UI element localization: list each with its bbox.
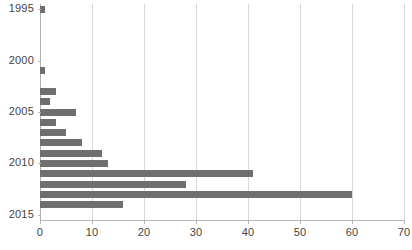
x-tick-mark-40 (248, 220, 249, 224)
bar-2012 (40, 181, 186, 188)
x-tick-mark-10 (92, 220, 93, 224)
bar-2008 (40, 139, 82, 146)
bar-2004 (40, 98, 50, 105)
bar-fill (40, 170, 253, 177)
y-tick-label: 2000 (0, 54, 34, 66)
gridline-x-50 (300, 4, 301, 220)
gridline-x-20 (144, 4, 145, 220)
y-tick-mark-2005 (38, 112, 41, 113)
gridline-x-40 (248, 4, 249, 220)
x-axis-line (40, 220, 405, 221)
bar-2007 (40, 129, 66, 136)
bar-fill (40, 109, 76, 116)
bar-2003 (40, 88, 56, 95)
bar-2005 (40, 109, 76, 116)
bar-fill (40, 191, 352, 198)
bar-2001 (40, 67, 45, 74)
bar-2014 (40, 201, 123, 208)
bar-chart: 010203040506070 19952000200520102015 (0, 0, 412, 250)
x-tick-mark-30 (196, 220, 197, 224)
x-tick-label: 10 (77, 226, 107, 238)
bar-fill (40, 88, 56, 95)
bar-fill (40, 98, 50, 105)
x-tick-label: 40 (233, 226, 263, 238)
x-tick-mark-60 (352, 220, 353, 224)
y-tick-mark-2015 (38, 215, 41, 216)
bar-fill (40, 139, 82, 146)
bar-fill (40, 119, 56, 126)
gridline-x-70 (404, 4, 405, 220)
bar-fill (40, 181, 186, 188)
bar-2011 (40, 170, 253, 177)
x-tick-mark-70 (404, 220, 405, 224)
bar-fill (40, 201, 123, 208)
x-tick-mark-50 (300, 220, 301, 224)
x-tick-label: 30 (181, 226, 211, 238)
y-tick-label: 2015 (0, 208, 34, 220)
gridline-x-30 (196, 4, 197, 220)
bar-fill (40, 67, 45, 74)
x-tick-label: 70 (389, 226, 412, 238)
plot-area (40, 4, 404, 220)
y-tick-mark-2000 (38, 61, 41, 62)
bar-fill (40, 150, 102, 157)
bar-2013 (40, 191, 352, 198)
y-tick-label: 1995 (0, 2, 34, 14)
y-tick-mark-2010 (38, 163, 41, 164)
gridline-x-60 (352, 4, 353, 220)
bar-2006 (40, 119, 56, 126)
gridline-x-10 (92, 4, 93, 220)
bar-fill (40, 160, 108, 167)
y-tick-label: 2005 (0, 105, 34, 117)
x-tick-label: 50 (285, 226, 315, 238)
x-tick-label: 0 (25, 226, 55, 238)
bar-2010 (40, 160, 108, 167)
x-tick-label: 60 (337, 226, 367, 238)
y-tick-label: 2010 (0, 156, 34, 168)
x-tick-mark-20 (144, 220, 145, 224)
bar-2009 (40, 150, 102, 157)
bar-fill (40, 129, 66, 136)
x-tick-mark-0 (40, 220, 41, 224)
x-tick-label: 20 (129, 226, 159, 238)
y-tick-mark-1995 (38, 9, 41, 10)
